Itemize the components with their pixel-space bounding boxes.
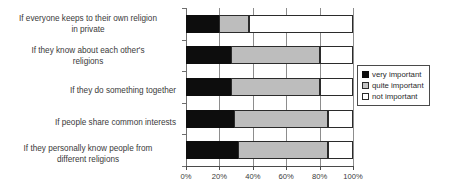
stacked-bar-chart: If everyone keeps to their own religion …	[0, 0, 461, 195]
category-label-3: If people share common interests	[0, 118, 176, 129]
bar-segment-quite	[238, 141, 328, 159]
legend-label: quite important	[372, 81, 424, 90]
bar-segment-very	[186, 110, 234, 128]
bar-segment-very	[186, 141, 238, 159]
legend-label: very important	[372, 70, 421, 79]
bar-row	[186, 46, 353, 64]
bar-segment-not	[249, 15, 353, 33]
x-axis-tick	[320, 166, 321, 170]
category-label-0-line-1: in private	[0, 25, 176, 36]
x-axis-tick	[219, 166, 220, 170]
x-axis-tick-label: 100%	[338, 172, 368, 181]
category-label-2-line-0: If they do something together	[0, 86, 176, 97]
bar-segment-not	[320, 46, 353, 64]
x-axis-tick-label: 0%	[171, 172, 201, 181]
x-axis-tick	[286, 166, 287, 170]
category-label-1: If they know about each other's religion…	[0, 46, 176, 67]
bar-row	[186, 15, 353, 33]
legend-item: quite important	[362, 80, 424, 91]
plot-area	[186, 8, 353, 166]
legend-label: not important	[372, 92, 418, 101]
legend-swatch-quite	[362, 82, 369, 89]
bar-segment-quite	[231, 78, 320, 96]
category-label-2: If they do something together	[0, 86, 176, 97]
x-axis-tick-label: 60%	[271, 172, 301, 181]
y-axis-tick	[182, 103, 186, 104]
y-axis-tick	[182, 134, 186, 135]
bar-segment-not	[328, 110, 353, 128]
category-label-1-line-0: If they know about each other's	[0, 46, 176, 57]
category-label-4-line-1: different religions	[0, 155, 176, 166]
bar-segment-not	[320, 78, 353, 96]
legend-item: very important	[362, 69, 424, 80]
category-axis-labels: If everyone keeps to their own religion …	[0, 8, 181, 166]
category-label-0: If everyone keeps to their own religion …	[0, 14, 176, 35]
legend-swatch-not	[362, 93, 369, 100]
legend-swatch-very	[362, 71, 369, 78]
y-axis-tick	[182, 8, 186, 9]
bar-segment-quite	[231, 46, 320, 64]
bar-segment-quite	[234, 110, 328, 128]
legend: very importantquite importantnot importa…	[357, 65, 430, 106]
bar-segment-very	[186, 78, 231, 96]
y-axis-tick	[182, 40, 186, 41]
x-axis-tick	[353, 166, 354, 170]
category-label-0-line-0: If everyone keeps to their own religion	[0, 14, 176, 25]
x-axis-tick-label: 40%	[238, 172, 268, 181]
category-label-4: If they personally know people from diff…	[0, 144, 176, 165]
bar-segment-not	[328, 141, 353, 159]
bar-segment-quite	[219, 15, 249, 33]
x-axis-tick-labels: 0%20%40%60%80%100%	[0, 172, 461, 186]
x-axis-tick	[253, 166, 254, 170]
x-axis-tick-label: 20%	[204, 172, 234, 181]
y-axis-tick	[182, 71, 186, 72]
category-label-4-line-0: If they personally know people from	[0, 144, 176, 155]
bar-row	[186, 78, 353, 96]
legend-item: not important	[362, 91, 424, 102]
category-label-3-line-0: If people share common interests	[0, 118, 176, 129]
bar-segment-very	[186, 46, 231, 64]
x-axis-tick	[186, 166, 187, 170]
bar-row	[186, 141, 353, 159]
gridline	[353, 8, 354, 166]
category-label-1-line-1: religions	[0, 57, 176, 68]
x-axis-tick-label: 80%	[305, 172, 335, 181]
bar-segment-very	[186, 15, 219, 33]
x-axis-line	[186, 166, 354, 167]
bar-row	[186, 110, 353, 128]
